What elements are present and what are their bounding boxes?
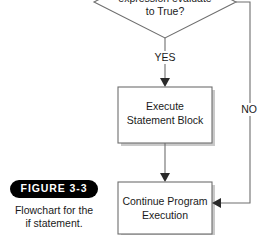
yes-connector: YES xyxy=(150,38,181,87)
execute-label-line1: Execute xyxy=(146,100,184,112)
continue-node: Continue Program Execution xyxy=(118,182,215,235)
decision-node: expression evaluate to True? xyxy=(94,0,236,38)
no-connector: NO xyxy=(212,2,262,208)
continue-box-shape xyxy=(118,182,212,234)
figure-caption: Flowchart for the if statement. xyxy=(4,204,104,232)
execute-to-continue-connector xyxy=(160,143,170,182)
execute-label-line2: Statement Block xyxy=(127,114,204,126)
continue-label-line1: Continue Program xyxy=(122,195,207,207)
no-edge-label: NO xyxy=(241,103,257,115)
figure-caption-line2: if statement. xyxy=(4,217,104,231)
figure-number-badge: FIGURE 3-3 xyxy=(10,180,99,198)
decision-label-line2: to True? xyxy=(146,5,185,17)
continue-label-line2: Execution xyxy=(142,209,188,221)
figure-block: FIGURE 3-3 Flowchart for the if statemen… xyxy=(4,178,104,231)
execute-node: Execute Statement Block xyxy=(118,87,215,146)
execute-to-continue-arrow-head xyxy=(160,173,170,182)
figure-caption-line1: Flowchart for the xyxy=(4,204,104,218)
figure-page: expression evaluate to True? YES Execute… xyxy=(0,0,266,235)
yes-edge-label: YES xyxy=(154,51,175,63)
yes-arrow-head xyxy=(160,78,170,87)
decision-label-line1: expression evaluate xyxy=(118,0,212,4)
